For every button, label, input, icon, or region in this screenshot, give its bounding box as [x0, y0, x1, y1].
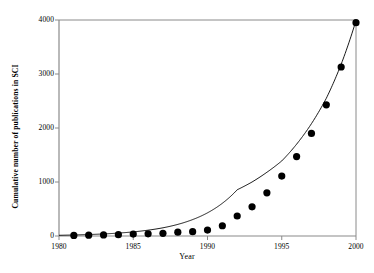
y-tick-label: 4000: [22, 15, 54, 24]
data-point: [145, 230, 152, 237]
data-point: [159, 230, 166, 237]
chart-figure: 01000200030004000 19801985199019952000 Y…: [0, 0, 374, 273]
data-point: [189, 228, 196, 235]
x-tick-label: 1995: [262, 242, 302, 251]
data-point: [352, 19, 359, 26]
x-tick-label: 1985: [113, 242, 153, 251]
data-point: [263, 189, 270, 196]
exponential-fit-line: [59, 21, 356, 236]
data-point: [234, 212, 241, 219]
data-point: [204, 226, 211, 233]
x-tick-label: 2000: [336, 242, 374, 251]
data-point: [115, 231, 122, 238]
data-point: [308, 130, 315, 137]
x-axis-title-text: Year: [179, 252, 195, 261]
y-axis-title-text: Cumulative number of publications in SCI: [11, 64, 20, 208]
y-tick-label: 1000: [22, 177, 54, 186]
y-axis-title: Cumulative number of publications in SCI: [6, 0, 24, 273]
data-point: [323, 101, 330, 108]
data-point: [100, 231, 107, 238]
data-point: [70, 232, 77, 239]
y-tick-label: 2000: [22, 123, 54, 132]
x-axis-title: Year: [0, 252, 374, 261]
data-point: [278, 172, 285, 179]
data-point: [219, 222, 226, 229]
data-point: [174, 229, 181, 236]
data-point: [248, 203, 255, 210]
y-tick-label: 3000: [22, 69, 54, 78]
x-tick-label: 1980: [39, 242, 79, 251]
data-point: [130, 231, 137, 238]
data-point-markers: [70, 19, 359, 239]
y-tick-label: 0: [22, 231, 54, 240]
axis-frame: [59, 20, 356, 236]
data-point: [338, 63, 345, 70]
data-point: [85, 232, 92, 239]
x-tick-label: 1990: [188, 242, 228, 251]
chart-plot-area: [0, 0, 374, 273]
data-point: [293, 153, 300, 160]
